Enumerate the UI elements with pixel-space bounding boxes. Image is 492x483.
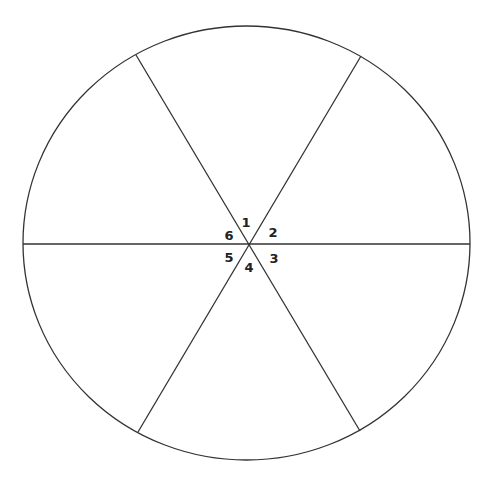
sector-label-3: 3 bbox=[269, 251, 278, 266]
sector-circle-diagram: 1 2 3 4 5 6 bbox=[0, 0, 492, 483]
diagonal-divider-a bbox=[136, 55, 360, 431]
sector-label-1: 1 bbox=[241, 215, 250, 230]
sector-label-6: 6 bbox=[224, 228, 233, 243]
sector-label-2: 2 bbox=[268, 225, 277, 240]
sector-label-5: 5 bbox=[224, 250, 233, 265]
sector-label-4: 4 bbox=[244, 260, 253, 275]
outer-circle bbox=[23, 26, 470, 460]
